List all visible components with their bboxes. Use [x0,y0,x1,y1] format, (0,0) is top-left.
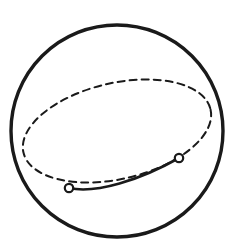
sphere-diagram-canvas: Sphere with great-circle path A circle r… [0,0,235,252]
waypoint-start-marker [65,184,73,192]
diagram-background [0,0,235,252]
sphere-diagram-svg: Sphere with great-circle path A circle r… [0,0,235,252]
waypoint-end-marker [175,154,183,162]
